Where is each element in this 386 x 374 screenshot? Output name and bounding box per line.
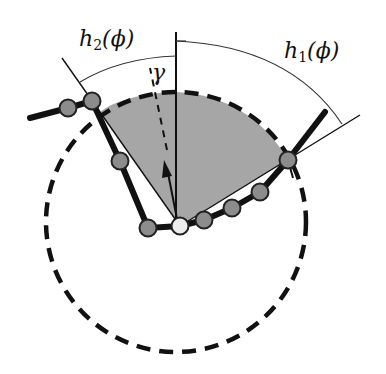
h1-argument: (ϕ) bbox=[307, 38, 339, 63]
chain-node bbox=[84, 93, 101, 110]
h1-label: h1(ϕ) bbox=[284, 40, 339, 64]
h2-base: h bbox=[79, 26, 93, 51]
chain-node bbox=[224, 200, 241, 217]
chain-node bbox=[112, 153, 129, 170]
h1-subscript: 1 bbox=[298, 49, 307, 65]
h1-base: h bbox=[284, 38, 298, 63]
chain-node bbox=[252, 184, 269, 201]
chain-node bbox=[280, 152, 297, 169]
chain-node bbox=[140, 220, 157, 237]
gamma-label: γ bbox=[152, 62, 165, 84]
center-node bbox=[172, 218, 189, 235]
h2-label: h2(ϕ) bbox=[79, 28, 134, 52]
h2-argument: (ϕ) bbox=[102, 26, 134, 51]
chain-node bbox=[60, 100, 77, 117]
chain-node bbox=[196, 212, 213, 229]
diagram-canvas: h2(ϕ) h1(ϕ) γ bbox=[0, 0, 386, 374]
h2-subscript: 2 bbox=[93, 37, 102, 53]
